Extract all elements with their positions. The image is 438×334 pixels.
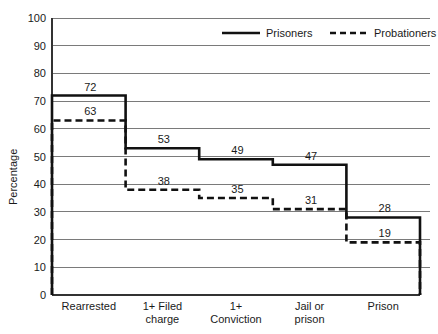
y-tick-label-50: 50: [34, 151, 46, 163]
x-category-label-2: 1+: [230, 300, 243, 312]
data-label-prisoners-2: 49: [231, 144, 243, 156]
y-tick-label-100: 100: [28, 12, 46, 24]
x-category-label-2: Conviction: [210, 313, 261, 325]
y-tick-label-70: 70: [34, 95, 46, 107]
legend-label-prisoners: Prisoners: [266, 27, 313, 39]
data-label-probationers-3: 31: [305, 194, 317, 206]
chart-container: 0102030405060708090100 Percentage 633835…: [0, 0, 438, 334]
y-tick-label-60: 60: [34, 123, 46, 135]
data-label-prisoners-1: 53: [158, 133, 170, 145]
data-label-probationers-4: 19: [379, 227, 391, 239]
step-line-chart: 0102030405060708090100 Percentage 633835…: [0, 0, 438, 334]
y-tick-label-80: 80: [34, 67, 46, 79]
y-tick-label-90: 90: [34, 40, 46, 52]
y-tick-label-0: 0: [40, 289, 46, 301]
y-tick-label-30: 30: [34, 206, 46, 218]
data-label-probationers-2: 35: [231, 183, 243, 195]
x-category-label-3: Jail or: [295, 300, 325, 312]
x-category-label-1: 1+ Filed: [143, 300, 182, 312]
x-category-label-1: charge: [146, 313, 180, 325]
x-category-label-0: Rearrested: [62, 300, 116, 312]
x-category-label-3: prison: [295, 313, 325, 325]
y-tick-label-20: 20: [34, 234, 46, 246]
y-tick-label-40: 40: [34, 178, 46, 190]
data-label-probationers-1: 38: [158, 175, 170, 187]
data-label-probationers-0: 63: [84, 105, 96, 117]
x-category-label-4: Prison: [368, 300, 399, 312]
chart-background: [0, 0, 438, 334]
y-tick-label-10: 10: [34, 261, 46, 273]
legend-label-probationers: Probationers: [374, 27, 437, 39]
data-label-prisoners-4: 28: [379, 202, 391, 214]
y-axis-title: Percentage: [7, 149, 19, 205]
data-label-prisoners-3: 47: [305, 150, 317, 162]
data-label-prisoners-0: 72: [84, 81, 96, 93]
